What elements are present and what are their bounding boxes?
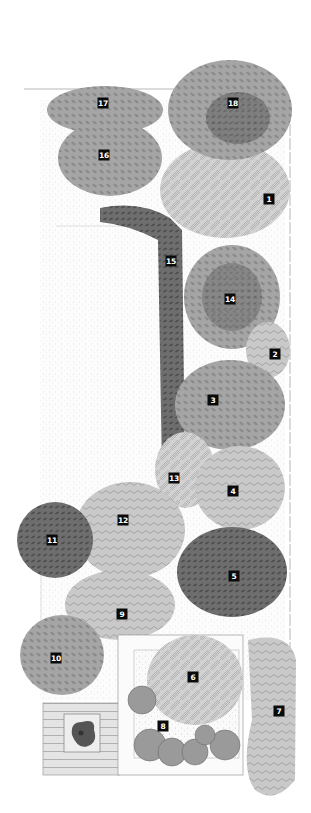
- plant-label-8: 8: [158, 721, 169, 732]
- plant-10: [20, 615, 104, 695]
- plant-label-11: 11: [47, 535, 58, 546]
- plant-label-5: 5: [229, 571, 240, 582]
- plant-label-6: 6: [188, 672, 199, 683]
- plant-7: [247, 638, 296, 796]
- plant-label-14: 14: [225, 294, 236, 305]
- plant-label-12: 12: [118, 515, 129, 526]
- plant-label-9: 9: [117, 609, 128, 620]
- plant-label-7: 7: [274, 706, 285, 717]
- plant-label-15: 15: [166, 256, 177, 267]
- plant-4: [195, 446, 285, 530]
- plant-label-2: 2: [270, 349, 281, 360]
- plant-label-10: 10: [51, 653, 62, 664]
- plant-label-17: 17: [98, 98, 109, 109]
- plant-label-3: 3: [208, 395, 219, 406]
- plant-label-1: 1: [264, 194, 275, 205]
- garden-plan-illustration: [0, 0, 311, 813]
- plant-label-13: 13: [169, 473, 180, 484]
- plant-label-16: 16: [99, 150, 110, 161]
- plant-label-18: 18: [228, 98, 239, 109]
- plant-label-4: 4: [228, 486, 239, 497]
- plant-16: [58, 120, 162, 196]
